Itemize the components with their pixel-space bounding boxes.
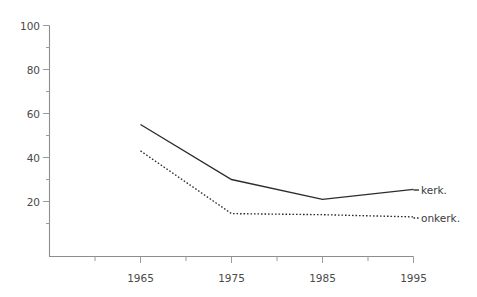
legend-label-onkerk: onkerk.: [421, 212, 460, 224]
y-axis-major-ticks: [43, 26, 50, 202]
y-label-100: 100: [20, 20, 40, 32]
x-label-1995: 1995: [400, 272, 427, 284]
line-chart: 100 80 60 40 20 1965 1975 1985 1995: [0, 0, 477, 297]
y-label-40: 40: [27, 152, 40, 164]
chart-canvas: 100 80 60 40 20 1965 1975 1985 1995: [0, 0, 477, 297]
y-label-60: 60: [27, 108, 40, 120]
y-label-20: 20: [27, 196, 40, 208]
series-line-kerk: [141, 125, 414, 200]
legend-label-kerk: kerk.: [421, 184, 447, 196]
axis-lines: [50, 26, 414, 257]
y-label-80: 80: [27, 64, 40, 76]
x-label-1985: 1985: [309, 272, 336, 284]
series-line-onkerk: [141, 151, 414, 217]
y-axis-tick-labels: 100 80 60 40 20: [20, 20, 40, 208]
x-axis-tick-labels: 1965 1975 1985 1995: [127, 272, 427, 284]
x-label-1965: 1965: [127, 272, 154, 284]
legend-group: kerk. onkerk.: [414, 184, 460, 224]
axes-group: [50, 26, 414, 257]
x-label-1975: 1975: [218, 272, 245, 284]
series-group: [141, 125, 414, 217]
